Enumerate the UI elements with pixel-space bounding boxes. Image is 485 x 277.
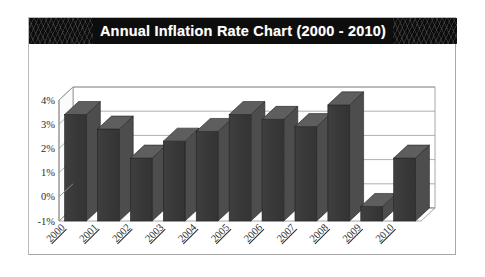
bar-2004 — [196, 118, 232, 221]
bar-front-face — [65, 115, 87, 221]
x-tick-label: 2004 — [176, 221, 199, 244]
bar-front-face — [196, 131, 218, 221]
page-title: Annual Inflation Rate Chart (2000 - 2010… — [100, 23, 386, 39]
bar-front-face — [328, 105, 350, 221]
bar-front-face — [394, 158, 416, 221]
chart-title-banner: Annual Inflation Rate Chart (2000 - 2010… — [29, 18, 457, 44]
y-tick-label: 2% — [41, 143, 55, 154]
bar-front-face — [130, 158, 152, 221]
bar-2002 — [130, 145, 166, 221]
y-tick-label: 0% — [41, 191, 55, 202]
bar-2000 — [65, 102, 101, 221]
y-axis-tick-labels: 4% 3% 2% 1% 0% -1% — [38, 95, 56, 227]
x-tick-label: 2002 — [110, 222, 133, 245]
bar-front-face — [262, 119, 284, 221]
y-tick-label: 4% — [41, 95, 55, 106]
bar-2005 — [229, 102, 265, 221]
bar-front-face — [361, 206, 383, 221]
x-tick-label: 2001 — [77, 222, 100, 245]
bar-2007 — [295, 114, 331, 221]
inflation-chart-card: Annual Inflation Rate Chart (2000 - 2010… — [28, 17, 456, 255]
y-tick-label: -1% — [38, 216, 56, 227]
bar-front-face — [98, 129, 120, 221]
x-tick-label: 2009 — [340, 222, 363, 245]
bar-2008 — [328, 92, 364, 221]
x-tick-label: 2005 — [209, 222, 232, 245]
inflation-bar-chart-svg: 4% 3% 2% 1% 0% -1% 200020012002200320042… — [29, 44, 457, 255]
y-tick-label: 1% — [41, 167, 55, 178]
bar-2006 — [262, 106, 298, 221]
bar-front-face — [229, 115, 251, 221]
x-tick-label: 2006 — [242, 222, 265, 245]
bar-front-face — [295, 127, 317, 221]
bar-2010 — [394, 145, 430, 221]
x-tick-label: 2003 — [143, 222, 166, 245]
x-tick-label: 2008 — [308, 222, 331, 245]
y-tick-label: 3% — [41, 119, 55, 130]
bar-2003 — [163, 128, 199, 221]
chart-plot-region: 4% 3% 2% 1% 0% -1% 200020012002200320042… — [29, 44, 457, 255]
bar-side-face — [350, 92, 364, 221]
bar-2001 — [98, 116, 134, 221]
x-axis-tick-labels: 2000200120022003200420052006200720082009… — [44, 221, 396, 244]
x-tick-label: 2007 — [275, 222, 298, 245]
x-tick-label: 2010 — [373, 222, 396, 245]
bar-front-face — [163, 141, 185, 221]
